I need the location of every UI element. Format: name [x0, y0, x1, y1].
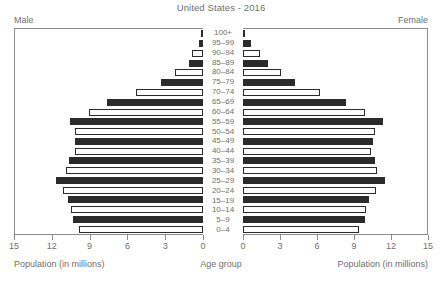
bar-row [15, 39, 203, 49]
age-group-tick: 5–9 [203, 215, 243, 225]
female-x-tick-mark [243, 235, 244, 240]
female-x-tick-label: 9 [351, 241, 356, 251]
age-group-tick: 55–59 [203, 117, 243, 127]
male-x-tick-mark [14, 235, 15, 240]
age-group-tick: 45–49 [203, 136, 243, 146]
bar-row [15, 166, 203, 176]
age-group-tick: 0–4 [203, 225, 243, 235]
bar-female-100+ [243, 30, 245, 37]
female-x-tick-label: 0 [240, 241, 245, 251]
bar-female-50_54 [243, 128, 375, 135]
bar-row [15, 156, 203, 166]
bar-female-40_44 [243, 148, 371, 155]
age-group-tick: 95–99 [203, 38, 243, 48]
bar-row [243, 166, 427, 176]
bar-male-30_34 [66, 167, 203, 174]
bar-female-75_79 [243, 79, 295, 86]
bar-male-65_69 [107, 99, 203, 106]
age-group-tick: 75–79 [203, 77, 243, 87]
male-x-tick-label: 12 [47, 241, 57, 251]
bar-male-10_14 [71, 206, 203, 213]
bar-female-35_39 [243, 157, 375, 164]
bar-male-15_19 [68, 196, 203, 203]
bar-male-70_74 [136, 89, 203, 96]
bar-female-80_84 [243, 69, 281, 76]
bar-female-95_99 [243, 40, 251, 47]
bar-row [243, 68, 427, 78]
bar-row [243, 195, 427, 205]
bar-row [15, 88, 203, 98]
bar-male-5_9 [73, 216, 203, 223]
bar-female-15_19 [243, 196, 369, 203]
age-group-tick: 65–69 [203, 97, 243, 107]
bar-row [243, 215, 427, 225]
bar-female-55_59 [243, 118, 383, 125]
bar-row [15, 29, 203, 39]
age-group-tick: 70–74 [203, 87, 243, 97]
bar-row [243, 156, 427, 166]
age-group-tick: 40–44 [203, 146, 243, 156]
female-x-tick-label: 6 [314, 241, 319, 251]
bar-row [15, 78, 203, 88]
bar-row [15, 127, 203, 137]
bar-male-40_44 [75, 148, 203, 155]
bar-female-70_74 [243, 89, 320, 96]
bar-male-75_79 [161, 79, 203, 86]
age-group-tick: 30–34 [203, 166, 243, 176]
bar-female-0_4 [243, 226, 359, 233]
bar-row [15, 49, 203, 59]
bar-row [15, 107, 203, 117]
bar-male-45_49 [75, 138, 203, 145]
bar-row [243, 185, 427, 195]
male-x-tick-mark [90, 235, 91, 240]
male-x-tick-label: 0 [200, 241, 205, 251]
bar-row [15, 205, 203, 215]
male-x-tick-label: 15 [9, 241, 19, 251]
bar-row [15, 58, 203, 68]
male-x-tick-mark [52, 235, 53, 240]
bar-female-30_34 [243, 167, 377, 174]
bar-row [243, 78, 427, 88]
bar-female-85_89 [243, 60, 268, 67]
bar-female-25_29 [243, 177, 385, 184]
age-group-tick: 35–39 [203, 156, 243, 166]
bar-row [243, 97, 427, 107]
bar-row [243, 146, 427, 156]
male-x-axis: 15129630 [14, 235, 203, 251]
bar-row [243, 107, 427, 117]
bar-row [243, 39, 427, 49]
bar-male-80_84 [175, 69, 203, 76]
female-plot-panel [243, 28, 428, 235]
bar-male-35_39 [69, 157, 203, 164]
female-x-tick-mark [317, 235, 318, 240]
bar-female-5_9 [243, 216, 365, 223]
female-side-label: Female [398, 15, 428, 25]
bar-female-65_69 [243, 99, 346, 106]
bar-male-55_59 [70, 118, 203, 125]
bar-row [15, 175, 203, 185]
female-bar-group [243, 29, 427, 234]
female-x-tick-mark [391, 235, 392, 240]
bar-male-85_89 [189, 60, 203, 67]
bar-male-0_4 [79, 226, 203, 233]
population-pyramid-chart: United States - 2016 Male Female 100+95–… [0, 0, 442, 281]
bar-male-50_54 [75, 128, 203, 135]
bar-row [243, 29, 427, 39]
bar-row [243, 88, 427, 98]
age-group-tick: 60–64 [203, 107, 243, 117]
female-x-tick-label: 3 [277, 241, 282, 251]
bar-row [243, 136, 427, 146]
female-x-axis: 03691215 [243, 235, 428, 251]
bar-male-20_24 [63, 187, 203, 194]
chart-title: United States - 2016 [0, 2, 442, 13]
female-x-tick-mark [354, 235, 355, 240]
female-x-tick-mark [280, 235, 281, 240]
age-group-tick: 50–54 [203, 127, 243, 137]
female-axis-caption: Population (in millions) [337, 259, 428, 269]
age-group-tick: 85–89 [203, 58, 243, 68]
bar-row [243, 49, 427, 59]
bar-row [243, 224, 427, 234]
bar-row [15, 195, 203, 205]
bar-row [243, 127, 427, 137]
bar-male-90_94 [192, 50, 203, 57]
